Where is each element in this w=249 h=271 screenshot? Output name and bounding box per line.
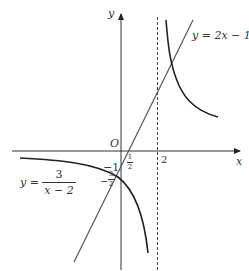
origin-label: O	[110, 138, 119, 149]
frac-numerator: 3	[109, 171, 113, 178]
frac-denominator: x − 2	[44, 184, 73, 197]
frac-denominator: 2	[128, 164, 132, 171]
hyperbola-label-lhs: y =	[20, 176, 39, 189]
line-y-2x-minus-1	[74, 20, 193, 262]
frac-numerator: 1	[128, 154, 132, 161]
hyperbola-label: y = 3 x − 2	[20, 168, 76, 197]
line-label: y = 2x − 1	[192, 30, 249, 41]
frac-numerator: 3	[55, 168, 62, 181]
hyperbola-label-fraction: 3 x − 2	[42, 168, 76, 197]
frac-bar	[42, 182, 76, 183]
tick-y-minus-three-halves: 3 2	[108, 171, 114, 188]
tick-x-2: 2	[161, 155, 167, 165]
frac-denominator: 2	[109, 181, 113, 188]
y-axis-label: y	[108, 8, 114, 19]
x-axis-label: x	[236, 156, 242, 167]
tick-x-one-half: 1 2	[127, 154, 133, 171]
